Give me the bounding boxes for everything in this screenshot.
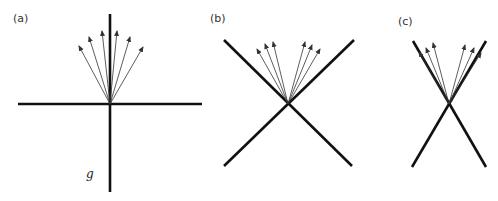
g-annotation: g (86, 167, 94, 181)
ray-arrow-icon (426, 48, 449, 104)
panel-label-a: (a) (13, 12, 28, 25)
figure-canvas: (a) (b) (c) g (0, 0, 498, 201)
panel-a (18, 14, 202, 192)
ray-arrow-icon (288, 45, 312, 104)
panel-label-b: (b) (210, 12, 226, 25)
ray-arrow-icon (419, 52, 449, 104)
ray-arrow-icon (449, 53, 481, 104)
panel-label-c: (c) (398, 15, 413, 28)
panel-b (224, 40, 354, 166)
ray-arrow-icon (433, 43, 449, 104)
panels-group (18, 14, 486, 192)
ray-arrow-icon (265, 44, 288, 104)
panel-c (412, 41, 486, 167)
